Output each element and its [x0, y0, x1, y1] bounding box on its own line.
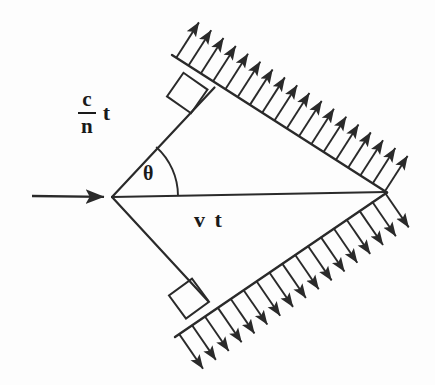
- radiation-arrow-upper: [299, 101, 322, 136]
- radiation-arrow-upper: [324, 117, 347, 152]
- radiation-arrow-lower: [334, 228, 358, 263]
- radiation-arrow-lower: [321, 237, 345, 272]
- radiation-arrow-upper: [262, 77, 285, 112]
- radiation-arrow-lower: [205, 316, 229, 351]
- fraction-numerator: c: [78, 88, 96, 111]
- radiation-arrow-lower: [282, 263, 306, 298]
- radiation-arrow-upper: [213, 46, 236, 81]
- radiation-arrow-lower: [231, 299, 255, 334]
- fraction-c-over-n: c n: [78, 88, 96, 137]
- radiation-arrow-upper: [336, 125, 359, 160]
- radiation-arrow-upper: [225, 54, 248, 89]
- radiation-arrow-lower: [359, 210, 383, 245]
- radiation-arrow-upper: [287, 93, 310, 128]
- radiation-arrow-upper: [373, 148, 396, 183]
- cherenkov-diagram: c n t v t θ: [0, 0, 435, 385]
- radiation-arrow-lower: [372, 202, 396, 237]
- right-angle-marker-lower: [169, 279, 209, 319]
- label-c-over-n-t: c n t: [78, 88, 148, 140]
- label-theta: θ: [143, 163, 153, 183]
- radiation-arrow-lower: [244, 290, 268, 325]
- radiation-arrow-upper: [348, 132, 371, 167]
- radiation-arrow-upper: [311, 109, 334, 144]
- radiation-arrow-upper: [238, 62, 261, 97]
- label-v-t: v t: [194, 209, 224, 231]
- radiation-arrow-upper: [189, 30, 212, 65]
- radiation-arrow-upper: [360, 140, 383, 175]
- radiation-arrow-lower: [295, 255, 319, 290]
- radiation-arrow-lower: [308, 246, 332, 281]
- time-symbol: t: [103, 102, 110, 124]
- upper-wavefront-line: [172, 55, 387, 193]
- particle-track-group: [32, 196, 104, 197]
- radiation-arrow-upper: [176, 22, 199, 57]
- radiation-arrow-upper: [201, 38, 224, 73]
- incoming-particle-arrow: [32, 196, 104, 197]
- radiation-arrow-lower: [179, 334, 203, 369]
- fraction-denominator: n: [78, 115, 96, 138]
- cherenkov-angle-arc: [156, 147, 178, 196]
- radiation-arrow-lower: [218, 308, 242, 343]
- radiation-arrow-upper: [250, 70, 273, 105]
- particle-axis-line: [112, 192, 386, 197]
- radiation-arrow-lower: [346, 219, 370, 254]
- radiation-arrow-lower: [256, 281, 280, 316]
- diagram-canvas: [0, 0, 435, 385]
- radiation-arrow-lower: [385, 193, 409, 228]
- upper-wavefront-arrows: [176, 22, 407, 191]
- radiation-arrow-upper: [385, 156, 408, 191]
- radiation-arrow-lower: [192, 325, 216, 360]
- radiation-arrow-lower: [269, 272, 293, 307]
- radiation-arrow-upper: [274, 85, 297, 120]
- right-angle-marker-upper: [167, 73, 208, 113]
